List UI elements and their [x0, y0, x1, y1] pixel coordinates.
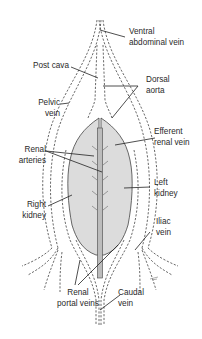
label-ventral-abdominal-vein: Ventral abdominal vein: [129, 27, 184, 48]
left-kidney-shape: [101, 118, 132, 255]
label-post-cava: Post cava: [33, 61, 69, 72]
label-left-kidney: Left kidney: [154, 178, 178, 199]
dorsal-aorta-shape: [98, 128, 103, 278]
label-pelvic-vein: Pelvic vein: [24, 98, 60, 119]
label-caudal-vein: Caudal vein: [118, 288, 144, 309]
artist-signature: [150, 277, 158, 280]
label-dorsal-aorta: Dorsal aorta: [146, 75, 170, 96]
label-renal-portal-veins: Renal portal veins: [46, 288, 110, 309]
label-right-kidney: Right kidney: [10, 200, 46, 221]
renal-portal-diagram: Ventral abdominal vein Post cava Dorsal …: [0, 0, 202, 339]
right-kidney-shape: [68, 118, 99, 255]
label-iliac-vein: Iliac vein: [156, 217, 171, 238]
label-renal-arteries: Renal arteries: [8, 145, 46, 166]
label-efferent-renal-vein: Efferent renal vein: [154, 127, 190, 148]
